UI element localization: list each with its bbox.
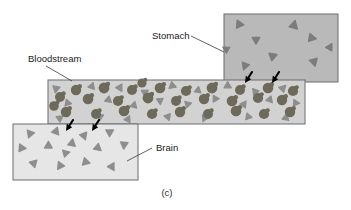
region-brain [13,124,138,180]
label-stomach: Stomach [152,30,190,41]
label-bloodstream: Bloodstream [28,53,81,64]
label-brain: Brain [156,142,178,153]
diagram-canvas: Stomach Bloodstream Brain (c) [0,0,351,210]
figure-drug-distribution-diagram: Stomach Bloodstream Brain (c) [0,0,351,210]
region-bloodstream [48,78,305,124]
figure-caption: (c) [161,187,172,198]
